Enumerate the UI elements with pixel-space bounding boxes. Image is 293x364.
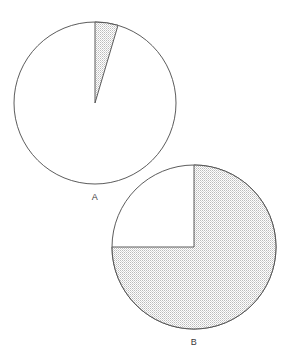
pie-b-label: B: [174, 337, 214, 347]
pie-a-label: A: [75, 192, 115, 202]
pie-chart-a: [14, 22, 176, 184]
pie-chart-figure: [0, 0, 293, 364]
pie-chart-b: [112, 165, 276, 329]
